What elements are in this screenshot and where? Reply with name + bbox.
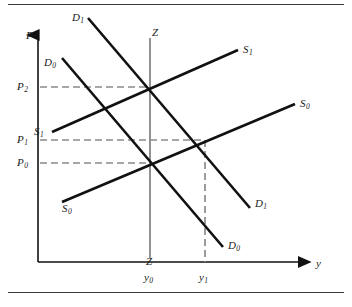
curve-label-s1-left: S1 [34,126,44,139]
curve-label-d0-topleft-base: D [44,56,52,68]
curve-label-s0-right-base: S [300,97,306,109]
curve-label-s1-right-base: S [243,43,249,55]
output-tick-y1-sub: 1 [204,276,208,285]
price-tick-p2: P2 [17,81,28,94]
curve-label-s0-left-sub: 0 [68,207,72,216]
curve-label-s0-left: S0 [62,203,72,216]
curve-label-d1-top-base: D [72,11,80,23]
curve-label-d0-topleft-sub: 0 [52,61,56,70]
price-tick-p2-sub: 2 [24,85,28,94]
curve-label-s0-right: S0 [300,98,310,111]
curve-label-s1-left-base: S [34,125,40,137]
price-tick-p2-base: P [17,80,24,92]
supply-curve-s0 [62,104,295,202]
price-tick-p1-sub: 1 [24,138,28,147]
diagram-canvas [0,0,352,307]
x-axis-label: y [316,258,321,269]
output-tick-y0: y0 [144,272,153,285]
z-label-bottom: Z [146,256,152,267]
price-tick-p0-sub: 0 [24,161,28,170]
curve-label-d1-right-base: D [255,197,263,209]
curve-label-s1-left-sub: 1 [40,130,44,139]
curve-label-s0-left-base: S [62,202,68,214]
curve-label-s1-right: S1 [243,44,253,57]
curve-label-d0-topleft: D0 [44,57,56,70]
curve-label-d1-right-sub: 1 [263,202,267,211]
price-tick-p1-base: P [17,133,24,145]
curve-label-d1-top: D1 [72,12,84,25]
curve-label-s1-right-sub: 1 [249,48,253,57]
supply-curve-s1 [52,50,238,132]
price-tick-p1: P1 [17,134,28,147]
curve-label-d1-top-sub: 1 [80,16,84,25]
curve-label-d0-bottom-sub: 0 [236,244,240,253]
curve-label-d1-right: D1 [255,198,267,211]
curve-label-d0-bottom: D0 [228,240,240,253]
price-tick-p0: P0 [17,157,28,170]
curve-label-s0-right-sub: 0 [306,102,310,111]
curve-label-d0-bottom-base: D [228,239,236,251]
z-label-top: Z [152,27,158,38]
output-tick-y1: y1 [199,272,208,285]
figure-panel: P y P2 P1 P0 y0 y1 Z Z D1 D0 S1 S0 S1 S0… [0,0,352,307]
y-axis-label: P [26,30,33,41]
price-tick-p0-base: P [17,156,24,168]
output-tick-y0-sub: 0 [149,276,153,285]
